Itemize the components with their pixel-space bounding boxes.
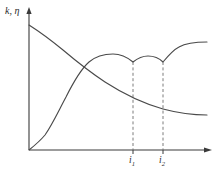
x-tick-label-i1: i1 <box>129 156 135 167</box>
x-tick-label-i2: i2 <box>159 156 165 167</box>
chart-plot-area <box>0 0 219 174</box>
figure-container: k, η i1 i2 <box>0 0 219 174</box>
x-tick-label-i2-subscript: 2 <box>162 160 165 167</box>
y-axis-symbol-eta: η <box>14 5 19 16</box>
y-axis-label: k, η <box>5 6 19 16</box>
curve-eta <box>29 42 207 150</box>
x-tick-label-i1-subscript: 1 <box>132 160 135 167</box>
arrow-right-icon <box>204 147 212 152</box>
arrow-up-icon <box>26 7 31 14</box>
curve-k <box>29 25 207 115</box>
